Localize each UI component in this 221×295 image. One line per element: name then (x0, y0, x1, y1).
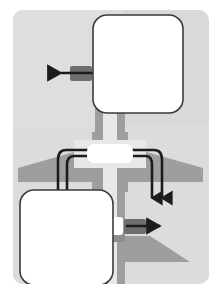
callout-box-upper[interactable] (93, 15, 183, 113)
callout-box-lower[interactable] (20, 190, 113, 285)
callout-box-center[interactable] (87, 144, 133, 163)
diagram-stage (0, 0, 221, 295)
aircraft-flow-diagram (0, 0, 221, 295)
